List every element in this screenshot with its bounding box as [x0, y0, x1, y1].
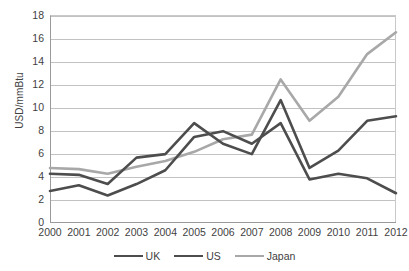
line-chart: USD/mmBtu 024681012141618 20002001200220… — [0, 0, 409, 271]
series-line-uk — [50, 123, 396, 195]
legend-line-swatch — [235, 255, 264, 257]
legend-item-japan[interactable]: Japan — [235, 250, 296, 262]
legend-line-swatch — [174, 255, 203, 257]
series-line-japan — [50, 32, 396, 173]
x-axis-tick-label: 2012 — [379, 226, 409, 238]
legend-line-swatch — [114, 255, 143, 257]
legend-label: UK — [146, 250, 161, 262]
legend-label: Japan — [267, 250, 296, 262]
chart-legend: UKUSJapan — [0, 250, 409, 262]
legend-item-us[interactable]: US — [174, 250, 221, 262]
legend-label: US — [206, 250, 221, 262]
series-line-us — [50, 100, 396, 184]
legend-item-uk[interactable]: UK — [114, 250, 161, 262]
x-axis-tick-labels: 2000200120022003200420052006200720082009… — [50, 226, 396, 244]
